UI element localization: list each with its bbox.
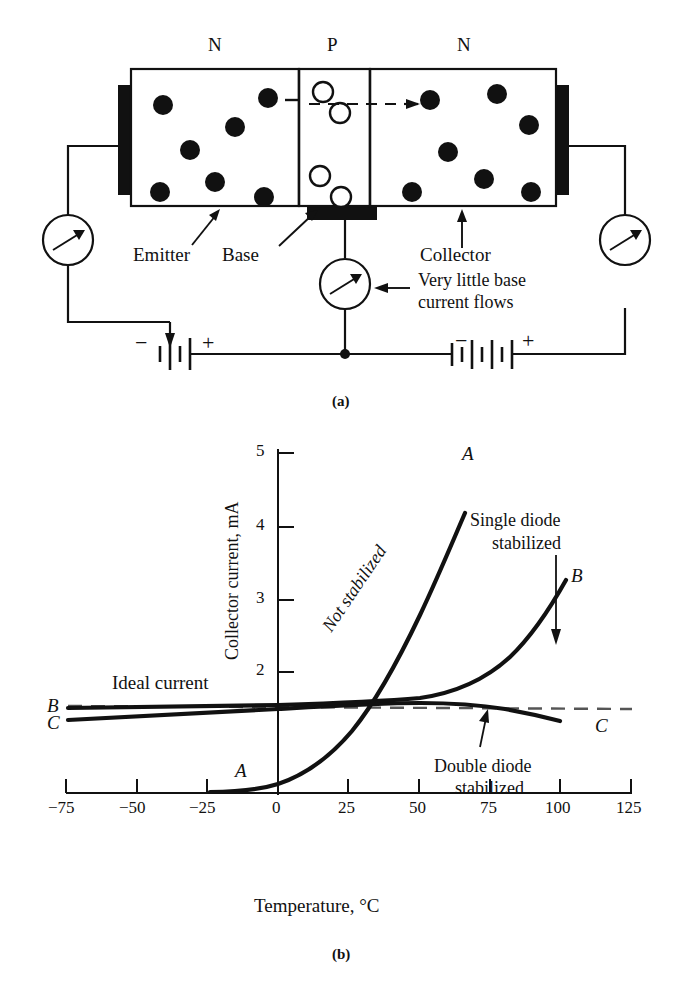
x-ticklabel--50: −50 bbox=[119, 798, 146, 818]
panel-b-caption: (b) bbox=[332, 946, 350, 963]
x-axis-label: Temperature, °C bbox=[254, 895, 380, 917]
annotation-double-diode-line1: Double diode bbox=[434, 756, 531, 776]
collector-label: Collector bbox=[420, 244, 491, 266]
figure-root: N P N Emitter Base Collector Very little… bbox=[0, 0, 686, 981]
x-ticklabel--25: −25 bbox=[189, 798, 216, 818]
curve-label-C-left: C bbox=[47, 712, 60, 734]
double-diode-annotation-arrow bbox=[479, 709, 489, 747]
x-ticklabel-125: 125 bbox=[616, 798, 642, 818]
collector-battery-minus: − bbox=[455, 328, 467, 354]
emitter-wire-top bbox=[68, 146, 118, 215]
y-ticklabel-3: 3 bbox=[256, 588, 265, 608]
x-ticklabel-25: 25 bbox=[338, 798, 355, 818]
collector-wire-top bbox=[569, 146, 625, 215]
emitter-region-label: N bbox=[208, 34, 222, 56]
y-ticklabel-4: 4 bbox=[256, 515, 265, 535]
emitter-battery bbox=[160, 338, 190, 370]
x-ticklabel-0: 0 bbox=[272, 798, 281, 818]
emitter-battery-minus: − bbox=[135, 330, 147, 356]
emitter-pointer-arrow bbox=[192, 209, 220, 245]
y-ticklabel-5: 5 bbox=[256, 441, 265, 461]
emitter-battery-plus: + bbox=[202, 330, 214, 356]
base-current-note-line1: Very little base bbox=[418, 270, 526, 291]
annotation-single-diode-line1: Single diode bbox=[470, 510, 561, 530]
emitter-wire-bottom bbox=[68, 265, 170, 322]
curve-label-B-right: B bbox=[571, 565, 583, 587]
curve-label-A-bottom: A bbox=[235, 760, 247, 782]
circuit-diagram bbox=[0, 0, 686, 400]
base-region-label: P bbox=[327, 34, 338, 56]
base-current-note-arrow bbox=[374, 283, 410, 293]
x-ticklabel--75: −75 bbox=[48, 798, 75, 818]
base-pointer-arrow bbox=[279, 210, 318, 246]
collector-battery-plus: + bbox=[522, 328, 534, 354]
panel-a-caption: (a) bbox=[332, 393, 350, 410]
collector-region-label: N bbox=[457, 34, 471, 56]
y-ticklabel-2: 2 bbox=[256, 660, 265, 680]
x-ticklabel-50: 50 bbox=[409, 798, 426, 818]
y-axis-label: Collector current, mA bbox=[222, 502, 243, 660]
curve-label-C-right: C bbox=[595, 715, 608, 737]
emitter-label: Emitter bbox=[133, 244, 190, 266]
curve-not-stabilized bbox=[210, 513, 465, 792]
annotation-ideal-current: Ideal current bbox=[112, 672, 209, 694]
annotation-double-diode-line2: stabilized bbox=[455, 778, 524, 798]
base-p-region bbox=[299, 69, 370, 206]
base-current-note-line2: current flows bbox=[418, 292, 513, 313]
base-label: Base bbox=[222, 244, 259, 266]
curve-label-A-top: A bbox=[462, 443, 474, 465]
x-ticklabel-100: 100 bbox=[545, 798, 571, 818]
x-ticklabel-75: 75 bbox=[480, 798, 497, 818]
collector-pointer-arrow bbox=[457, 209, 467, 248]
annotation-single-diode-line2: stabilized bbox=[492, 533, 561, 553]
